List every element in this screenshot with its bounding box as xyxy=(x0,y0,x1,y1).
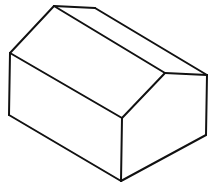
line-drawing xyxy=(0,0,211,191)
left-wall-vertical xyxy=(9,53,10,115)
right-wall-vertical xyxy=(206,75,207,135)
front-corner-vertical xyxy=(121,118,122,181)
faces-group xyxy=(9,6,207,181)
house-prism-diagram xyxy=(0,0,211,191)
